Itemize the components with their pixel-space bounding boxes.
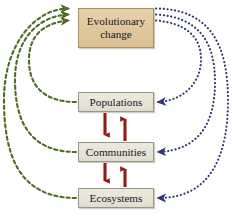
green-curve-ecosystems-to-evolution bbox=[4, 9, 76, 199]
box-ecosystems[interactable]: Ecosystems bbox=[78, 188, 154, 208]
box-communities[interactable]: Communities bbox=[78, 142, 154, 162]
box-label-communities: Communities bbox=[86, 146, 146, 159]
green-feedback-curves bbox=[4, 9, 76, 199]
box-populations[interactable]: Populations bbox=[78, 92, 154, 112]
box-label-evolutionary-change: Evolutionary change bbox=[87, 15, 145, 40]
blue-curve-evolution-to-populations bbox=[156, 21, 201, 103]
box-evolutionary-change[interactable]: Evolutionary change bbox=[78, 8, 154, 48]
blue-curve-evolution-to-communities bbox=[156, 15, 215, 153]
green-curve-populations-to-evolution bbox=[29, 21, 76, 103]
blue-curve-evolution-to-ecosystems bbox=[156, 9, 228, 199]
blue-feedback-curves bbox=[156, 9, 228, 199]
box-label-ecosystems: Ecosystems bbox=[90, 192, 143, 205]
green-curve-communities-to-evolution bbox=[15, 15, 76, 153]
evolutionary-ecology-diagram: Evolutionary change Populations Communit… bbox=[0, 0, 232, 220]
box-label-populations: Populations bbox=[90, 96, 143, 109]
